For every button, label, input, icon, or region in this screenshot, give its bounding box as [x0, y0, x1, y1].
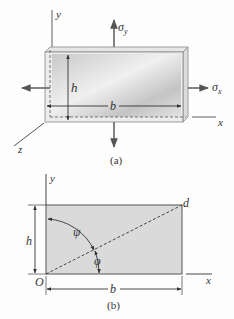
sigma-y-label: σy: [118, 20, 128, 36]
plate-right-face: [183, 47, 188, 122]
b-label-b: b: [110, 282, 116, 296]
figure-b: y ψ φ h x O d b (b): [26, 172, 212, 312]
diagram-canvas: y σy h b σx x z (a): [0, 0, 234, 319]
z-axis-label-a: z: [17, 143, 23, 155]
h-label-b: h: [26, 234, 32, 248]
h-label-a: h: [71, 80, 78, 95]
origin-label: O: [35, 275, 44, 289]
psi-label: ψ: [73, 225, 81, 239]
caption-b: (b): [107, 299, 120, 312]
sigma-x-label: σx: [212, 80, 222, 96]
x-axis-label-a: x: [217, 116, 223, 128]
figure-a: y σy h b σx x z (a): [14, 8, 223, 167]
caption-a: (a): [110, 154, 123, 167]
y-axis-label-b: y: [49, 172, 55, 184]
b-label-a: b: [110, 99, 116, 113]
plate-top-face: [45, 47, 188, 52]
phi-label: φ: [94, 254, 101, 268]
x-axis-label-b: x: [205, 274, 211, 286]
corner-d-label: d: [183, 196, 190, 210]
y-axis-label-a: y: [55, 8, 61, 20]
